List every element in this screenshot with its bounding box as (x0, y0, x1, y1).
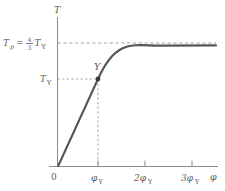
x-tick-label-2phiy: 2φ Y (133, 173, 153, 186)
x-tick-label-3phiy-main: 3φ (181, 173, 194, 183)
x-tick-label-phiy-main: φ (91, 173, 98, 183)
x-tick-label-2phiy-main: 2φ (133, 173, 147, 183)
y-tick-label-tp: T p = 4 3 T Y (3, 36, 47, 52)
tp-rhs-main: T (35, 38, 42, 48)
torque-twist-chart: Y T φ 0 φ Y 2φ Y 3φ Y T Y T p (0, 0, 225, 191)
tp-equals: = (16, 38, 24, 48)
chart-svg: Y T φ 0 φ Y 2φ Y 3φ Y T Y T p (0, 0, 225, 191)
origin-label: 0 (51, 172, 57, 182)
torque-twist-curve (58, 45, 216, 166)
yield-point-label: Y (94, 61, 102, 72)
x-axis-label: φ (210, 171, 217, 182)
x-tick-label-phiy: φ Y (91, 173, 104, 186)
yield-point-marker (96, 77, 101, 82)
x-tick-label-2phiy-sub: Y (147, 178, 153, 186)
tp-fraction-numerator: 4 (28, 36, 32, 43)
y-axis-label: T (54, 4, 61, 15)
tp-main: T (3, 38, 10, 48)
tp-rhs-sub: Y (41, 43, 47, 51)
x-tick-label-3phiy: 3φ Y (181, 173, 200, 186)
x-tick-label-3phiy-sub: Y (194, 178, 200, 186)
y-tick-label-ty: T Y (40, 74, 52, 87)
x-tick-label-phiy-sub: Y (98, 178, 104, 186)
y-tick-label-ty-sub: Y (46, 79, 52, 87)
tp-fraction-denominator: 3 (28, 44, 32, 51)
tp-sub: p (10, 43, 14, 51)
y-tick-label-ty-main: T (40, 74, 47, 84)
